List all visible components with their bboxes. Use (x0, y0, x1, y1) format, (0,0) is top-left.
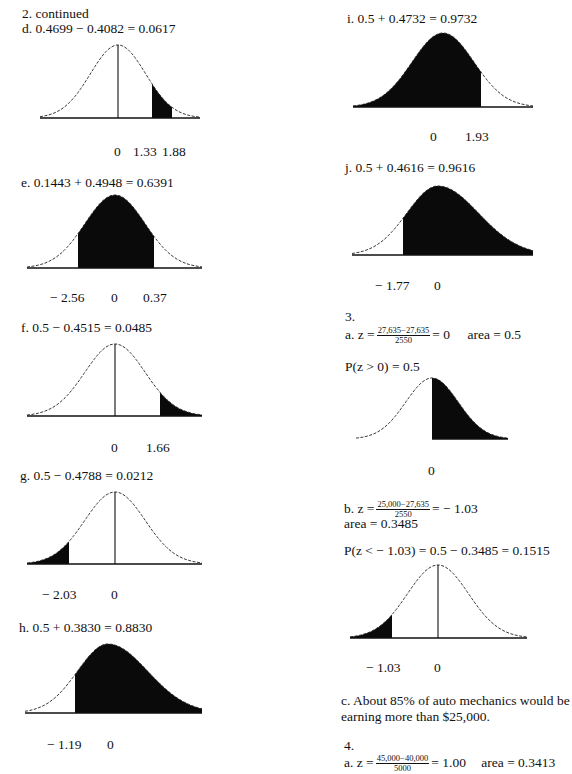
normal-curve-e (27, 195, 202, 268)
normal-curve-3a (356, 378, 508, 439)
problem-3-number: 3. (345, 309, 355, 324)
section-header: 2. continued (22, 6, 89, 21)
label-g-0: − 2.03 (42, 587, 77, 602)
equation-j: j. 0.5 + 0.4616 = 0.9616 (345, 160, 475, 175)
shaded-area-f (160, 392, 202, 416)
shaded-area-j (403, 186, 533, 255)
label-f-1: 1.66 (146, 440, 170, 455)
problem-3a-area: area = 0.5 (467, 327, 521, 342)
label-e-0: − 2.56 (50, 290, 85, 305)
problem-3b-area: area = 0.3485 (344, 516, 418, 531)
label-h-0: − 1.19 (47, 737, 82, 752)
problem-4a-formula: a. z =45,000−40,0005000= 1.00 area = 0.3… (344, 754, 555, 773)
shaded-area-g (27, 542, 69, 565)
label-e-1: 0 (111, 290, 118, 305)
shaded-area-e (78, 195, 154, 268)
label-i-0: 0 (430, 129, 437, 144)
problem-3a-denominator: 2550 (377, 336, 431, 345)
shaded-area-h (75, 644, 202, 713)
normal-curve-3b (350, 565, 527, 638)
equation-d: d. 0.4699 − 0.4082 = 0.0617 (22, 21, 176, 36)
normal-curve-d (40, 45, 200, 118)
normal-curve-j (352, 186, 533, 255)
normal-curve-g (27, 492, 202, 564)
label-d-0: 0 (114, 144, 121, 159)
problem-3a-suffix: = 0 (432, 327, 450, 342)
problem-4a-fraction: 45,000−40,0005000 (376, 754, 430, 773)
label-3b-0: − 1.03 (366, 660, 401, 675)
problem-4a-prefix: a. z = (344, 755, 374, 770)
label-d-1: 1.33 (133, 144, 157, 159)
problem-3a-formula: a. z =27,635−27,6352550= 0 area = 0.5 (345, 326, 521, 345)
equation-e: e. 0.1443 + 0.4948 = 0.6391 (21, 175, 174, 190)
problem-3a-fraction: 27,635−27,6352550 (377, 326, 431, 345)
label-g-1: 0 (111, 587, 118, 602)
label-f-0: 0 (111, 440, 118, 455)
equation-g: g. 0.5 − 0.4788 = 0.0212 (20, 468, 153, 483)
curve-outline-d (40, 45, 200, 117)
normal-curve-h (25, 644, 202, 713)
label-3b-1: 0 (434, 660, 441, 675)
problem-3c-line2: earning more than $25,000. (341, 709, 490, 724)
label-h-1: 0 (107, 737, 114, 752)
problem-4a-area: area = 0.3413 (481, 755, 555, 770)
problem-3b-probability: P(z < − 1.03) = 0.5 − 0.3485 = 0.1515 (344, 543, 550, 558)
normal-curve-i (353, 33, 533, 107)
label-3a-0: 0 (428, 463, 435, 478)
equation-h: h. 0.5 + 0.3830 = 0.8830 (19, 620, 152, 635)
problem-3b-suffix: = − 1.03 (432, 501, 478, 516)
problem-3a-prefix: a. z = (345, 327, 375, 342)
problem-3c-line1: c. About 85% of auto mechanics would be (341, 693, 570, 708)
curves-canvas (0, 0, 572, 774)
problem-3a-probability: P(z > 0) = 0.5 (345, 359, 420, 374)
equation-i: i. 0.5 + 0.4732 = 0.9732 (347, 11, 477, 26)
problem-4-number: 4. (344, 738, 354, 753)
problem-3b-prefix: b. z = (344, 501, 374, 516)
label-j-0: − 1.77 (375, 278, 410, 293)
label-d-2: 1.88 (162, 144, 186, 159)
label-i-1: 1.93 (465, 129, 489, 144)
shaded-area-3b (350, 615, 392, 638)
problem-4a-denominator: 5000 (376, 764, 430, 773)
label-j-1: 0 (434, 278, 441, 293)
label-e-2: 0.37 (143, 290, 167, 305)
shaded-area-i (353, 33, 481, 107)
problem-4a-suffix: = 1.00 (431, 755, 466, 770)
normal-curve-f (27, 344, 202, 416)
equation-f: f. 0.5 − 0.4515 = 0.0485 (21, 320, 152, 335)
shaded-area-3a (432, 378, 508, 439)
